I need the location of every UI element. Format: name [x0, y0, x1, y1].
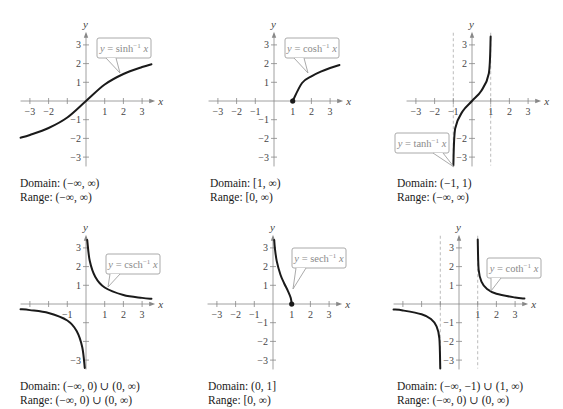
panel-acsch-caption: Domain: (−∞, 0) ∪ (0, ∞) Range: (−∞, 0) … — [20, 379, 140, 407]
y-tick-label: 2 — [449, 261, 454, 272]
y-axis-label: y — [270, 18, 276, 30]
y-axis-label: y — [82, 18, 88, 30]
x-tick-label: 2 — [308, 309, 313, 320]
range-text: Range: (−∞, ∞) — [20, 190, 99, 204]
y-tick-label: −2 — [257, 336, 268, 347]
graph-acoth: xy123−3−2−1123y = coth−1 x — [394, 221, 541, 370]
callout-pointer — [491, 278, 501, 291]
callout-pointer — [108, 274, 120, 287]
function-label-callout: y = sech−1 x — [292, 248, 346, 289]
x-tick-label: −2 — [429, 106, 440, 117]
y-tick-label: 1 — [264, 77, 269, 88]
x-tick-label: 3 — [328, 106, 333, 117]
panel-asech-caption: Domain: (0, 1] Range: [0, ∞) — [208, 379, 276, 407]
function-label-callout: y = tanh−1 x — [395, 133, 454, 167]
y-tick-label: 1 — [449, 280, 454, 291]
y-tick-label: 3 — [264, 39, 269, 50]
range-text: Range: (−∞, 0) ∪ (0, ∞) — [20, 393, 140, 407]
x-axis-arrow-icon — [149, 99, 155, 103]
function-label: y = sinh−1 x — [99, 42, 148, 54]
panel-asinh-caption: Domain: (−∞, ∞) Range: (−∞, ∞) — [20, 176, 99, 204]
x-tick-label: 2 — [121, 106, 126, 117]
endpoint-dot — [290, 98, 295, 103]
x-tick-label: 1 — [102, 309, 107, 320]
y-axis-label: y — [82, 221, 88, 233]
y-tick-label: 2 — [462, 58, 467, 69]
y-axis-arrow-icon — [84, 32, 88, 38]
x-axis-arrow-icon — [337, 99, 343, 103]
x-axis-label: x — [157, 95, 163, 107]
graph-acsch: xy−1123−3123y = csch−1 x — [21, 221, 164, 370]
y-tick-label: −3 — [70, 355, 81, 366]
x-axis-arrow-icon — [336, 302, 342, 306]
x-tick-label: 1 — [289, 309, 294, 320]
x-tick-label: 3 — [513, 309, 518, 320]
x-tick-label: 2 — [309, 106, 314, 117]
callout-pointer — [294, 58, 308, 73]
y-axis-label: y — [269, 221, 275, 233]
x-tick-label: 3 — [140, 309, 145, 320]
y-axis-arrow-icon — [470, 32, 474, 38]
x-axis-arrow-icon — [522, 302, 528, 306]
y-tick-label: 2 — [263, 261, 268, 272]
y-axis-arrow-icon — [457, 235, 461, 241]
curve — [293, 65, 340, 101]
graph-asech: xy−3−2−1123−3−2−1123y = sech−1 x — [208, 221, 351, 370]
function-label: y = tanh−1 x — [397, 137, 447, 149]
x-tick-label: 3 — [140, 106, 145, 117]
x-tick-label: −2 — [231, 106, 242, 117]
function-label: y = cosh−1 x — [286, 42, 337, 54]
callout-pointer — [293, 268, 306, 289]
function-label-callout: y = csch−1 x — [106, 254, 160, 287]
y-tick-label: 1 — [76, 280, 81, 291]
y-axis-label: y — [468, 18, 474, 30]
y-tick-label: −1 — [70, 114, 81, 125]
endpoint-dot — [289, 301, 294, 306]
y-axis-label: y — [455, 221, 461, 233]
y-tick-label: 2 — [264, 58, 269, 69]
panel-acoth-caption: Domain: (−∞, −1) ∪ (1, ∞) Range: (−∞, 0)… — [397, 379, 523, 407]
y-tick-label: 1 — [263, 280, 268, 291]
x-tick-label: −3 — [212, 309, 223, 320]
y-tick-label: 2 — [76, 261, 81, 272]
x-tick-label: 1 — [102, 106, 107, 117]
y-tick-label: −1 — [258, 114, 269, 125]
x-tick-label: 3 — [526, 106, 531, 117]
graph-asinh: xy−3−2123−3−2−1123y = sinh−1 x — [21, 18, 164, 167]
x-tick-label: −2 — [43, 106, 54, 117]
domain-text: Domain: (−∞, ∞) — [20, 176, 99, 190]
curve-left-branch — [394, 310, 441, 369]
function-label: y = sech−1 x — [293, 252, 344, 264]
y-tick-label: −2 — [70, 133, 81, 144]
y-tick-label: −3 — [258, 152, 269, 163]
y-tick-label: −2 — [258, 133, 269, 144]
x-axis-arrow-icon — [149, 302, 155, 306]
y-tick-label: 3 — [449, 242, 454, 253]
callout-pointer — [433, 153, 454, 167]
y-tick-label: 3 — [263, 242, 268, 253]
x-tick-label: 1 — [488, 106, 493, 117]
function-label: y = coth−1 x — [489, 262, 539, 274]
x-tick-label: 1 — [290, 106, 295, 117]
y-tick-label: −3 — [70, 152, 81, 163]
x-tick-label: −2 — [230, 309, 241, 320]
x-axis-label: x — [344, 298, 350, 310]
x-tick-label: −3 — [25, 106, 36, 117]
x-axis-label: x — [530, 298, 536, 310]
y-tick-label: −1 — [257, 317, 268, 328]
graph-atanh: xy−3−2−1123−3−223y = tanh−1 x — [395, 18, 549, 167]
y-tick-label: 3 — [76, 242, 81, 253]
domain-text: Domain: [1, ∞) — [210, 176, 280, 190]
domain-text: Domain: (−∞, 0) ∪ (0, ∞) — [20, 379, 140, 393]
x-tick-label: 2 — [507, 106, 512, 117]
x-axis-label: x — [345, 95, 351, 107]
y-tick-label: −3 — [257, 355, 268, 366]
y-tick-label: 1 — [76, 77, 81, 88]
panel-acosh-caption: Domain: [1, ∞) Range: [0, ∞) — [210, 176, 280, 204]
curve — [274, 240, 291, 304]
y-tick-label: 2 — [76, 58, 81, 69]
x-tick-label: 1 — [475, 309, 480, 320]
x-axis-label: x — [157, 298, 163, 310]
x-tick-label: −1 — [448, 106, 459, 117]
